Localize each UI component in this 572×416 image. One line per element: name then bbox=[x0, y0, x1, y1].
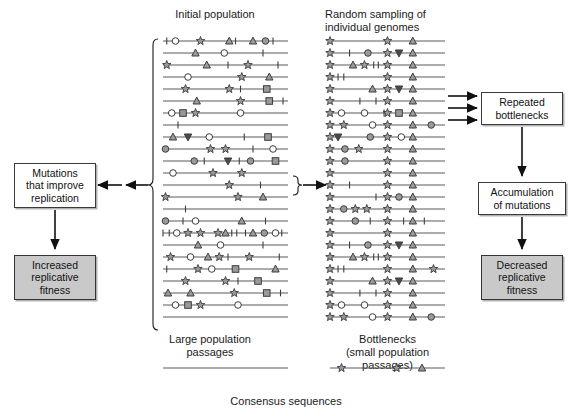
marker-star bbox=[326, 289, 335, 297]
marker-star bbox=[196, 229, 205, 237]
genome-row bbox=[326, 37, 445, 45]
genome-row bbox=[163, 241, 288, 248]
marker-circle-filled bbox=[261, 230, 268, 237]
marker-star bbox=[237, 73, 246, 81]
marker-star bbox=[326, 49, 335, 57]
genome-row bbox=[326, 229, 445, 237]
genome-row bbox=[326, 265, 445, 273]
marker-star bbox=[326, 121, 335, 129]
genome-row bbox=[163, 109, 288, 117]
genome-row bbox=[163, 85, 288, 93]
marker-square bbox=[263, 86, 270, 93]
marker-star bbox=[383, 313, 392, 321]
marker-star bbox=[194, 265, 203, 273]
right-genome-panel bbox=[326, 37, 445, 321]
genome-row bbox=[161, 193, 288, 201]
marker-star bbox=[326, 157, 335, 165]
marker-circle-filled bbox=[396, 194, 403, 201]
marker-circle-open bbox=[168, 110, 175, 117]
marker-star bbox=[383, 277, 392, 285]
left-genome-panel bbox=[161, 37, 288, 318]
marker-star bbox=[326, 193, 335, 201]
diagram-vector-layer bbox=[0, 0, 572, 416]
genome-row bbox=[326, 121, 445, 129]
marker-star bbox=[383, 205, 392, 213]
marker-circle-open bbox=[173, 230, 180, 237]
marker-circle-open bbox=[338, 302, 345, 309]
genome-row bbox=[163, 158, 288, 165]
marker-circle-open bbox=[208, 266, 215, 273]
genome-row bbox=[326, 61, 445, 69]
marker-star bbox=[326, 229, 335, 237]
genome-row bbox=[163, 253, 288, 261]
marker-square bbox=[255, 278, 262, 285]
marker-square bbox=[180, 110, 187, 117]
marker-star bbox=[383, 253, 392, 261]
marker-star bbox=[161, 193, 170, 201]
marker-star bbox=[326, 301, 335, 309]
genome-row bbox=[326, 289, 445, 297]
marker-star bbox=[221, 145, 230, 153]
marker-circle-open bbox=[185, 74, 192, 81]
marker-circle-filled bbox=[365, 242, 372, 249]
marker-star bbox=[383, 301, 392, 309]
genome-row bbox=[326, 133, 445, 141]
genome-row bbox=[326, 97, 445, 105]
marker-circle-open bbox=[270, 146, 277, 153]
marker-star bbox=[214, 229, 223, 237]
genome-row bbox=[162, 61, 288, 69]
genome-row bbox=[326, 241, 445, 249]
marker-circle-open bbox=[221, 50, 228, 57]
marker-star bbox=[383, 217, 392, 225]
genome-rows bbox=[161, 37, 445, 372]
marker-circle-open bbox=[206, 134, 213, 141]
genome-row bbox=[163, 122, 288, 129]
marker-circle-open bbox=[217, 242, 224, 249]
genome-row bbox=[326, 169, 445, 177]
marker-circle-open bbox=[369, 314, 376, 321]
marker-circle-filled bbox=[367, 134, 374, 141]
marker-star bbox=[363, 205, 372, 213]
marker-star bbox=[209, 169, 218, 177]
marker-star bbox=[340, 313, 349, 321]
arrows-to-repeated-bottlenecks bbox=[448, 96, 477, 120]
genome-row bbox=[326, 145, 445, 153]
marker-star bbox=[326, 85, 335, 93]
marker-circle-open bbox=[338, 110, 345, 117]
genome-row bbox=[326, 301, 445, 309]
marker-star bbox=[225, 85, 234, 93]
marker-star bbox=[326, 73, 335, 81]
marker-circle-open bbox=[187, 254, 194, 261]
marker-star bbox=[326, 145, 335, 153]
marker-star bbox=[351, 205, 360, 213]
genome-row bbox=[163, 49, 288, 56]
marker-star bbox=[354, 145, 363, 153]
genome-row bbox=[326, 73, 445, 81]
genome-row bbox=[162, 217, 288, 224]
marker-star bbox=[326, 109, 335, 117]
genome-row bbox=[326, 313, 445, 321]
marker-star bbox=[383, 193, 392, 201]
marker-circle-filled bbox=[428, 314, 435, 321]
marker-star bbox=[230, 289, 239, 297]
left-panel-bracket bbox=[148, 39, 158, 330]
marker-star bbox=[383, 289, 392, 297]
marker-star bbox=[166, 253, 175, 261]
marker-star bbox=[383, 73, 392, 81]
marker-circle-open bbox=[172, 38, 179, 45]
marker-star bbox=[326, 97, 335, 105]
genome-row bbox=[163, 181, 288, 189]
marker-star bbox=[326, 205, 335, 213]
marker-star bbox=[181, 85, 190, 93]
marker-star bbox=[237, 169, 246, 177]
marker-star bbox=[337, 364, 346, 372]
genome-row bbox=[326, 49, 445, 57]
marker-circle-open bbox=[192, 218, 199, 225]
marker-star bbox=[383, 85, 392, 93]
marker-star bbox=[383, 61, 392, 69]
marker-circle-filled bbox=[341, 206, 348, 213]
genome-row bbox=[326, 217, 445, 225]
marker-star bbox=[326, 253, 335, 261]
marker-circle-open bbox=[398, 134, 405, 141]
marker-star bbox=[326, 277, 335, 285]
